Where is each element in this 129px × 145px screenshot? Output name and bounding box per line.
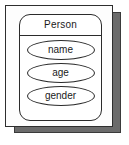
attribute-ellipse[interactable]: age — [27, 63, 95, 83]
attribute-label: gender — [28, 87, 94, 105]
attribute-list: name age gender — [20, 37, 101, 106]
entity-title: Person — [20, 15, 101, 35]
attribute-ellipse[interactable]: name — [27, 40, 95, 60]
diagram-canvas: Person name age gender — [0, 0, 129, 145]
attribute-label: age — [28, 64, 94, 82]
entity-title-divider — [20, 35, 101, 36]
entity-box[interactable]: Person name age gender — [19, 14, 102, 121]
attribute-ellipse[interactable]: gender — [27, 86, 95, 106]
entity-card[interactable]: Person name age gender — [5, 5, 113, 127]
attribute-label: name — [28, 41, 94, 59]
